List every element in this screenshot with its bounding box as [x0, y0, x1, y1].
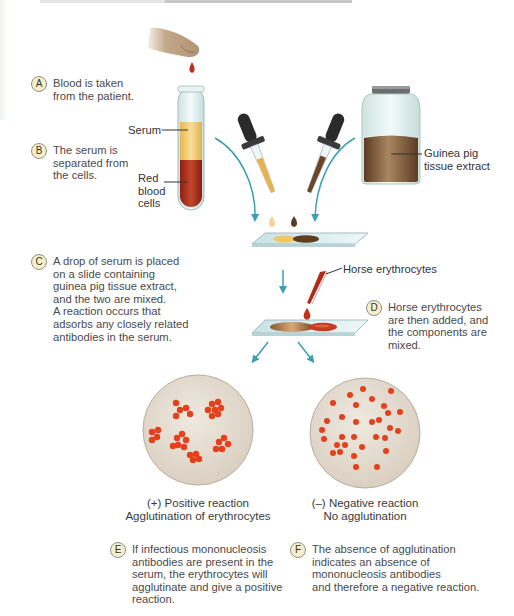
- slide-2-icon: [252, 320, 368, 336]
- step-d: D Horse erythrocytes are then added, and…: [366, 301, 488, 351]
- step-c: C A drop of serum is placed on a slide c…: [31, 255, 189, 343]
- slide-1-icon: [252, 233, 368, 247]
- step-badge: B: [31, 143, 47, 159]
- erythrocyte-drop-icon: [304, 308, 311, 320]
- step-badge: A: [31, 76, 47, 92]
- step-badge: D: [366, 300, 382, 316]
- step-badge: C: [31, 254, 47, 270]
- horse-erythrocytes-label: Horse erythrocytes: [343, 263, 437, 276]
- negative-no-agglutination-circle: [310, 378, 420, 488]
- extract-dropper-icon: [298, 110, 352, 197]
- step-b: B The serum is separated from the cells.: [31, 144, 128, 182]
- step-f: F The absence of agglutination indicates…: [290, 543, 479, 593]
- curved-arrow-icon: [315, 138, 355, 218]
- finger-icon: [148, 28, 199, 57]
- curved-arrow-icon: [215, 138, 255, 218]
- red-blood-cells-label: Red blood cells: [138, 172, 165, 210]
- serum-label: Serum: [128, 124, 161, 137]
- serum-drop-icon: [269, 216, 275, 227]
- step-text: Blood is taken from the patient.: [53, 77, 134, 102]
- step-text: Horse erythrocytes are then added, and t…: [388, 301, 488, 351]
- extract-drop-icon: [291, 216, 297, 227]
- step-badge: E: [110, 542, 126, 558]
- test-tube-icon: [178, 86, 204, 210]
- serum-dropper-icon: [230, 110, 284, 197]
- guinea-pig-extract-label: Guinea pig tissue extract: [424, 147, 490, 172]
- step-badge: F: [290, 542, 306, 558]
- positive-reaction-caption: (+) Positive reaction Agglutination of e…: [118, 497, 278, 523]
- step-a: A Blood is taken from the patient.: [31, 77, 134, 102]
- arrow-to-negative-icon: [298, 342, 312, 360]
- arrow-to-positive-icon: [254, 342, 268, 360]
- horse-erythrocytes-pipette-icon: [307, 271, 327, 304]
- step-text: The absence of agglutination indicates a…: [312, 543, 479, 593]
- step-text: If infectious mononucleosis antibodies a…: [132, 543, 283, 606]
- positive-agglutination-circle: [143, 375, 253, 485]
- step-text: A drop of serum is placed on a slide con…: [53, 255, 189, 343]
- blood-drop-icon: [189, 62, 194, 73]
- guinea-pig-extract-vial-icon: [362, 86, 420, 184]
- step-text: The serum is separated from the cells.: [53, 144, 128, 182]
- step-e: E If infectious mononucleosis antibodies…: [110, 543, 283, 606]
- negative-reaction-caption: (–) Negative reaction No agglutination: [300, 497, 430, 523]
